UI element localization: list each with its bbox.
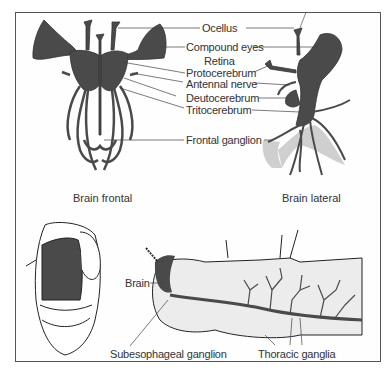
brain-frontal-illustration [33, 20, 166, 135]
caption-brain-lateral: Brain lateral [282, 192, 341, 204]
label-antennal-nerve: Antennal nerve [186, 78, 257, 90]
label-compound-eyes: Compound eyes [186, 41, 264, 53]
label-frontal-ganglion: Frontal ganglion [186, 134, 262, 146]
label-retina: Retina [204, 55, 235, 67]
brain-lateral-illustration [263, 12, 350, 175]
label-ocellus: Ocellus [202, 22, 237, 34]
label-subesophageal-ganglion: Subesophageal ganglion [110, 348, 227, 360]
insect-head-illustration [26, 222, 100, 355]
label-thoracic-ganglia: Thoracic ganglia [258, 348, 336, 360]
caption-brain-frontal: Brain frontal [73, 192, 132, 204]
lateral-body-illustration [146, 230, 362, 338]
label-deutocerebrum: Deutocerebrum [186, 92, 259, 104]
label-tritocerebrum: Tritocerebrum [186, 104, 251, 116]
label-brain: Brain [125, 277, 150, 289]
nervous-system-diagram [0, 0, 387, 373]
